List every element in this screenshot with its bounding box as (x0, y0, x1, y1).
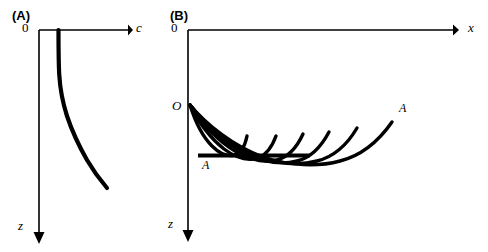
figure-root: (A) 0 c z (B) 0 x z O A A (0, 0, 488, 252)
panel-a-horizontal-axis (39, 25, 133, 36)
panel-b-z-arrowhead (183, 230, 194, 242)
panel-a: (A) 0 c z (0, 0, 180, 252)
panel-b: (B) 0 x z O A A (160, 0, 488, 252)
panel-a-vertical-axis (34, 30, 45, 244)
panel-b-x-arrowhead (453, 25, 459, 36)
panel-b-horizontal-axis (188, 25, 459, 36)
panel-b-vertical-axis (183, 30, 194, 242)
panel-b-plot (160, 0, 488, 252)
panel-a-z-arrowhead (34, 232, 45, 244)
panel-a-x-arrowhead (128, 25, 133, 36)
panel-a-plot (0, 0, 180, 252)
panel-a-concentration-profile (59, 30, 108, 188)
